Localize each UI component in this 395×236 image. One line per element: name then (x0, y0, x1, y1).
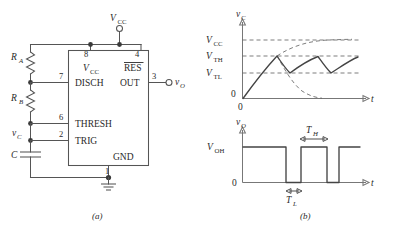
resistor-ra-sublabel: A (18, 57, 24, 64)
level-label-vth: V (206, 51, 213, 61)
pin-label-trig: TRIG (75, 136, 97, 146)
pin-number-6: 6 (59, 112, 63, 122)
level-label-vtl: V (206, 68, 213, 78)
interval-marker-tl: T L (286, 189, 302, 207)
discharge-envelope (277, 56, 322, 98)
supply-terminal-vcc (117, 26, 123, 45)
pin-number-8: 8 (84, 49, 88, 59)
level-label-vcc: V (206, 35, 213, 45)
resistor-rb-label: R (10, 93, 17, 103)
level-label-vth-sub: TH (214, 56, 223, 63)
interval-label-th: T (306, 125, 312, 135)
vo-x-axis-label: t (371, 178, 374, 188)
vo-origin-label: 0 (232, 178, 237, 188)
junction-pin8 (88, 42, 93, 47)
ground-symbol (102, 178, 116, 191)
vc-waveform (243, 56, 358, 99)
vc-origin-label-axis: 0 (238, 102, 243, 112)
pin-number-2: 2 (59, 129, 63, 139)
supply-label: V (110, 13, 117, 23)
junction-vcc (117, 42, 122, 47)
node-vo-sublabel: O (180, 82, 185, 89)
plot-capacitor-voltage: v C t V CC V TH V TL 0 0 (206, 9, 374, 112)
figure-container: V CC 8 4 7 6 2 3 1 V CC RES DISCH THRESH… (0, 0, 395, 236)
level-label-vcc-sub: CC (214, 40, 224, 47)
vo-waveform (243, 147, 360, 183)
output-terminal (166, 80, 172, 86)
plot-output-voltage: T H T L v O t V OH 0 (207, 117, 374, 207)
resistor-rb-sublabel: B (19, 98, 23, 105)
resistor-ra (27, 45, 35, 83)
pin-number-7: 7 (59, 71, 63, 81)
vo-high-label: V (207, 142, 214, 152)
supply-label-sub: CC (118, 18, 128, 25)
resistor-ra-label: R (10, 52, 17, 62)
pin-label-vcc-sub: CC (90, 68, 100, 75)
vc-origin-label: 0 (231, 89, 236, 99)
pin-label-thresh: THRESH (75, 119, 112, 129)
figure-svg: V CC 8 4 7 6 2 3 1 V CC RES DISCH THRESH… (0, 0, 395, 236)
resistor-rb (27, 83, 35, 124)
interval-label-tl-sub: L (292, 200, 297, 207)
pin-label-out: OUT (120, 78, 140, 88)
pin-number-1: 1 (105, 166, 109, 176)
pin-number-3: 3 (152, 71, 156, 81)
level-label-vtl-sub: TL (214, 73, 222, 80)
pin-label-gnd: GND (113, 152, 134, 162)
pin-label-disch: DISCH (75, 78, 104, 88)
caption-b: (b) (300, 211, 311, 221)
vo-high-label-sub: OH (215, 147, 225, 154)
capacitor-c (21, 141, 41, 178)
interval-label-tl: T (286, 195, 292, 205)
vo-y-axis-sub: O (241, 122, 246, 129)
pin-label-res: RES (124, 63, 141, 73)
vc-x-axis-label: t (371, 94, 374, 104)
panel-b-waveforms: v C t V CC V TH V TL 0 0 (206, 9, 374, 221)
node-vc-sublabel: C (17, 133, 22, 140)
pin-label-vcc: V (83, 63, 90, 73)
panel-a-circuit: V CC 8 4 7 6 2 3 1 V CC RES DISCH THRESH… (10, 13, 185, 221)
charging-envelope (277, 39, 352, 56)
interval-label-th-sub: H (312, 130, 319, 137)
capacitor-c-label: C (11, 150, 18, 160)
caption-a: (a) (92, 211, 103, 221)
vc-y-axis-sub: C (241, 14, 246, 21)
interval-marker-th: T H (300, 125, 328, 141)
